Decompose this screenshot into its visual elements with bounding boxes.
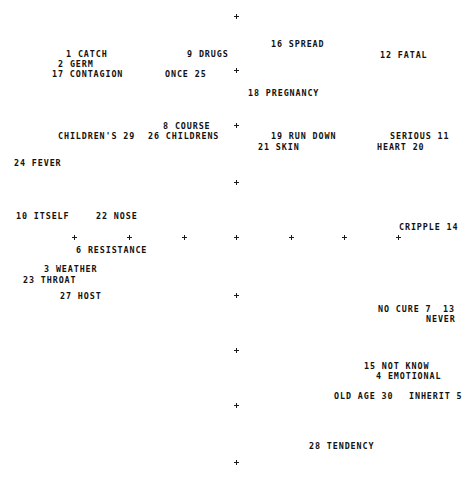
data-point-label: 16 SPREAD [271,39,324,49]
x-axis-tick [234,234,241,241]
data-point-label: INHERIT 5 [409,391,462,401]
data-point-label: NO CURE 7 [378,304,431,314]
data-point-label: 22 NOSE [96,211,138,221]
data-point-label: 24 FEVER [14,158,62,168]
x-axis-tick [72,234,79,241]
data-point-label: OLD AGE 30 [334,391,393,401]
y-axis-tick [234,347,241,354]
data-point-label: 6 RESISTANCE [76,245,147,255]
data-point-label: 15 NOT KNOW [364,361,429,371]
data-point-label: CRIPPLE 14 [399,222,458,232]
data-point-label: 17 CONTAGION [52,69,123,79]
y-axis-tick [234,67,241,74]
x-axis-tick [396,234,403,241]
data-point-label: 10 ITSELF [16,211,69,221]
data-point-label: 13 [443,304,455,314]
data-point-label: NEVER [426,314,456,324]
x-axis-tick [182,234,189,241]
x-axis-tick [127,234,134,241]
y-axis-tick [234,179,241,186]
data-point-label: 21 SKIN [258,142,300,152]
data-point-label: ONCE 25 [165,69,207,79]
y-axis-tick [234,122,241,129]
data-point-label: 18 PREGNANCY [248,88,319,98]
data-point-label: 3 WEATHER [44,264,97,274]
x-axis-tick [289,234,296,241]
data-point-label: CHILDREN'S 29 [58,131,135,141]
data-point-label: 4 EMOTIONAL [376,371,441,381]
data-point-label: 23 THROAT [23,275,76,285]
perceptual-map-scatter-plot: 1 CATCH9 DRUGS16 SPREAD12 FATAL2 GERM17 … [0,0,471,477]
data-point-label: SERIOUS 11 [390,131,449,141]
data-point-label: 8 COURSE [163,121,211,131]
y-axis-tick [234,292,241,299]
y-axis-tick [234,402,241,409]
data-point-label: 28 TENDENCY [309,441,374,451]
y-axis-tick [234,13,241,20]
data-point-label: 26 CHILDRENS [148,131,219,141]
data-point-label: HEART 20 [377,142,425,152]
data-point-label: 9 DRUGS [187,49,229,59]
data-point-label: 2 GERM [58,59,94,69]
x-axis-tick [342,234,349,241]
data-point-label: 12 FATAL [380,50,428,60]
data-point-label: 27 HOST [60,291,102,301]
y-axis-tick [234,459,241,466]
data-point-label: 1 CATCH [66,49,108,59]
data-point-label: 19 RUN DOWN [271,131,336,141]
